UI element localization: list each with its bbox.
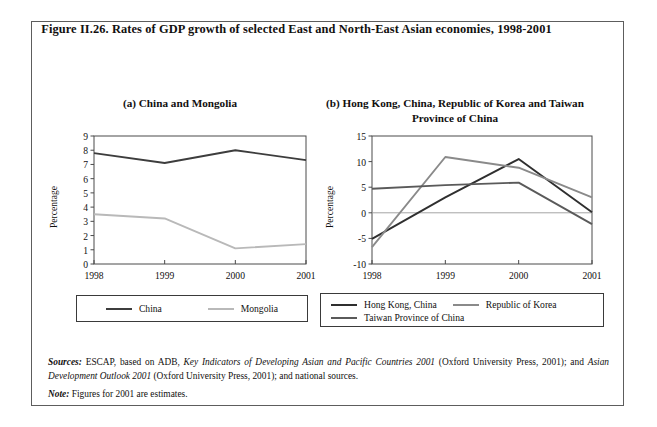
x-tick-label: 2000	[211, 270, 259, 281]
legend-item-taiwan: Taiwan Province of China	[331, 312, 464, 323]
plot-frame	[372, 136, 592, 264]
x-tick-label: 1999	[421, 270, 469, 281]
legend-swatch-korea	[453, 304, 479, 306]
x-tick-label: 1998	[348, 270, 396, 281]
legend-swatch-mongolia	[208, 308, 234, 310]
series-line-hong-kong-china	[372, 159, 592, 239]
sources-note: Sources: ESCAP, based on ADB, Key Indica…	[48, 356, 609, 383]
x-tick-label: 2000	[495, 270, 543, 281]
x-tick-label: 1999	[141, 270, 189, 281]
x-tick-label: 2001	[568, 270, 616, 281]
y-tick-label: 15	[320, 131, 366, 142]
legend-swatch-taiwan	[331, 317, 357, 319]
note-line: Note: Figures for 2001 are estimates.	[48, 388, 609, 402]
legend-label-china: China	[139, 303, 162, 314]
note-text: Figures for 2001 are estimates.	[72, 389, 188, 399]
legend-label-korea: Republic of Korea	[486, 299, 557, 310]
legend-panel-b: Hong Kong, China Republic of Korea Taiwa…	[320, 293, 604, 327]
y-axis-label: Percentage	[324, 186, 335, 228]
figure-title: Figure II.26. Rates of GDP growth of sel…	[41, 20, 552, 38]
y-tick-label: 10	[320, 156, 366, 167]
series-line-mongolia	[94, 214, 306, 248]
legend-label-mongolia: Mongolia	[241, 303, 278, 314]
sources-label: Sources:	[48, 357, 82, 367]
x-tick-label: 1998	[70, 270, 118, 281]
sources-text-3: (Oxford University Press, 2001); and nat…	[151, 371, 358, 381]
y-tick-label: 9	[46, 131, 88, 142]
legend-item-hong-kong: Hong Kong, China	[331, 299, 437, 310]
y-tick-label: 7	[46, 159, 88, 170]
sources-text-1: ESCAP, based on ADB,	[86, 357, 184, 367]
legend-swatch-hong-kong	[331, 304, 357, 306]
y-tick-label: 2	[46, 230, 88, 241]
y-axis-label: Percentage	[48, 186, 59, 228]
y-tick-label: 8	[46, 145, 88, 156]
panel-b-title: (b) Hong Kong, China, Republic of Korea …	[320, 96, 590, 126]
note-label: Note:	[48, 389, 69, 399]
series-line-republic-of-korea	[372, 157, 592, 247]
legend-item-china: China	[106, 303, 162, 314]
sources-italic-1: Key Indicators of Developing Asian and P…	[184, 357, 435, 367]
legend-label-hong-kong: Hong Kong, China	[364, 299, 437, 310]
panel-a-title: (a) China and Mongolia	[60, 96, 300, 111]
sources-text-2: (Oxford University Press, 2001); and	[435, 357, 588, 367]
legend-swatch-china	[106, 308, 132, 310]
y-tick-label: -5	[320, 233, 366, 244]
y-tick-label: 0	[46, 259, 88, 270]
y-tick-label: -10	[320, 259, 366, 270]
legend-item-korea: Republic of Korea	[453, 299, 557, 310]
y-tick-label: 1	[46, 244, 88, 255]
legend-label-taiwan: Taiwan Province of China	[364, 312, 464, 323]
series-line-china	[94, 150, 306, 163]
chart-panel-a: 01234567891998199920002001Percentage	[46, 128, 312, 288]
figure-page: Figure II.26. Rates of GDP growth of sel…	[0, 0, 657, 427]
legend-item-mongolia: Mongolia	[208, 303, 278, 314]
y-tick-label: 6	[46, 173, 88, 184]
legend-panel-a: China Mongolia	[76, 295, 308, 322]
chart-panel-b: -10-50510151998199920002001Percentage	[320, 128, 600, 288]
